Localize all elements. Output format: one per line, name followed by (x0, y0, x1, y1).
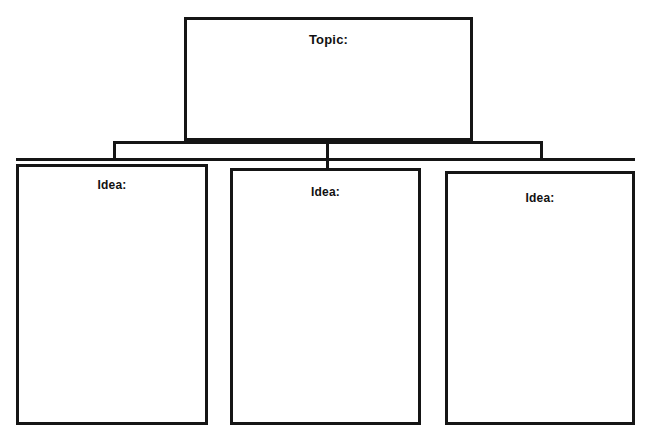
idea-label-3: Idea: (448, 191, 632, 205)
topic-box[interactable]: Topic: (184, 17, 473, 141)
connector-stem-center (326, 141, 329, 171)
idea-label-2: Idea: (233, 185, 418, 199)
idea-box-1[interactable]: Idea: (16, 164, 208, 425)
graphic-organizer-canvas: Topic: Idea: Idea: Idea: (0, 0, 650, 441)
connector-bar-upper (113, 141, 543, 144)
idea-label-1: Idea: (19, 178, 205, 192)
topic-label: Topic: (187, 32, 470, 47)
connector-bar-lower (16, 158, 635, 161)
idea-box-2[interactable]: Idea: (230, 168, 421, 425)
idea-box-3[interactable]: Idea: (445, 171, 635, 425)
